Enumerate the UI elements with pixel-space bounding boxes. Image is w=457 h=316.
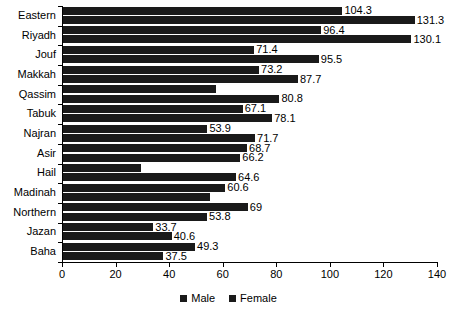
legend-item[interactable]: Male [180,292,215,304]
bar-male [63,7,342,15]
category-label: Madinah [0,187,56,198]
chart-row: Riyadh96.4130.1 [0,26,457,46]
bar-female [63,193,210,201]
category-label: Najran [0,128,56,139]
chart-row: Madinah60.6 [0,183,457,203]
y-tick [58,183,62,184]
category-label: Asir [0,148,56,159]
bar-value-label: 71.4 [256,44,277,55]
y-tick [58,85,62,86]
bar-value-label: 96.4 [323,25,344,36]
bar-female [63,55,319,63]
legend-label: Male [191,292,215,304]
chart-row: Najran53.971.7 [0,124,457,144]
chart-row: Asir68.766.2 [0,144,457,164]
bar-male [63,184,225,192]
y-tick [58,164,62,165]
bar-male [63,46,254,54]
y-tick [58,223,62,224]
x-tick-label: 100 [310,268,350,281]
bar-male [63,144,247,152]
chart-legend: MaleFemale [0,292,457,304]
bar-male [63,105,243,113]
legend-swatch-icon [229,295,236,302]
chart-row: Makkah73.287.7 [0,65,457,85]
x-axis-line [62,262,438,263]
x-tick-label: 140 [417,268,457,281]
chart-row: Northern6953.8 [0,203,457,223]
x-tick [437,263,438,267]
chart-row: Jazan33.740.6 [0,223,457,243]
category-label: Eastern [0,10,56,21]
bar-male [63,223,153,231]
bar-female [63,95,279,103]
y-tick [58,65,62,66]
y-tick [58,242,62,243]
chart-row: Qassim80.8 [0,85,457,105]
category-label: Qassim [0,89,56,100]
bar-value-label: 73.2 [261,64,282,75]
bar-female [63,213,207,221]
y-tick [58,124,62,125]
x-tick-label: 60 [203,268,243,281]
chart-row: Jouf71.495.5 [0,45,457,65]
x-tick-label: 80 [256,268,296,281]
x-tick-label: 120 [363,268,403,281]
bar-value-label: 53.8 [209,211,230,222]
x-tick [276,263,277,267]
bar-value-label: 87.7 [300,74,321,85]
bar-female [63,114,272,122]
x-tick [223,263,224,267]
bar-male [63,26,321,34]
chart-row: Eastern104.3131.3 [0,6,457,26]
x-tick [62,263,63,267]
y-tick [58,144,62,145]
bar-male [63,164,141,172]
category-label: Riyadh [0,30,56,41]
bar-male [63,66,259,74]
legend-swatch-icon [180,295,187,302]
bar-value-label: 95.5 [321,54,342,65]
x-tick-label: 0 [42,268,82,281]
category-label: Jouf [0,49,56,60]
x-tick [330,263,331,267]
bar-male [63,85,216,93]
bar-value-label: 67.1 [245,103,266,114]
bar-female [63,173,236,181]
category-label: Tabuk [0,108,56,119]
y-tick [58,26,62,27]
y-tick [58,45,62,46]
category-label: Northern [0,207,56,218]
bar-female [63,16,415,24]
legend-label: Female [240,292,277,304]
legend-item[interactable]: Female [229,292,277,304]
bar-chart: Eastern104.3131.3Riyadh96.4130.1Jouf71.4… [0,0,457,316]
chart-row: Baha49.337.5 [0,242,457,262]
bar-female [63,154,240,162]
bar-value-label: 69 [250,202,262,213]
bar-male [63,125,207,133]
bar-value-label: 80.8 [281,93,302,104]
y-tick [58,203,62,204]
y-tick [58,6,62,7]
category-label: Makkah [0,69,56,80]
bar-female [63,252,163,260]
x-tick [169,263,170,267]
x-tick [116,263,117,267]
bar-value-label: 37.5 [165,251,186,262]
bar-female [63,75,298,83]
bar-value-label: 131.3 [417,15,445,26]
category-label: Jazan [0,226,56,237]
bar-value-label: 130.1 [413,34,441,45]
bar-value-label: 66.2 [242,152,263,163]
bar-female [63,134,255,142]
category-label: Hail [0,167,56,178]
bar-value-label: 78.1 [274,113,295,124]
bar-value-label: 104.3 [344,5,372,16]
bar-female [63,232,172,240]
bar-value-label: 40.6 [174,231,195,242]
bar-value-label: 49.3 [197,241,218,252]
bar-female [63,35,411,43]
x-tick [383,263,384,267]
x-tick-label: 20 [96,268,136,281]
